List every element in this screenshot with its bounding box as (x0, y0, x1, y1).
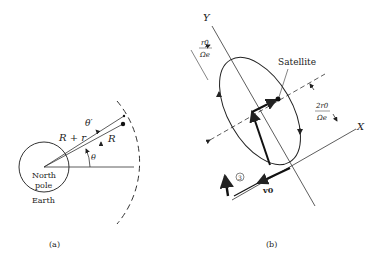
small-arrow-3 (225, 176, 228, 196)
axis-y-label: Y (203, 12, 211, 23)
vector-along-y (252, 112, 270, 165)
height-dim-arrow-top (310, 84, 314, 90)
reference-dot-a (123, 115, 125, 117)
earth-label-pole: pole (35, 181, 52, 190)
figure-canvas: θ′ R + r R θ North pole Earth (a) (0, 0, 383, 257)
label-theta: θ (91, 153, 96, 162)
x-axis-line (232, 129, 356, 200)
figure-b: Y X Satellite r0 Ωe 2r0 Ωe v0 3 (b) (191, 12, 365, 249)
axis-x-label: X (356, 121, 365, 132)
satellite-dot-a (121, 122, 125, 126)
velocity-vector (258, 168, 290, 183)
dashed-center-line (210, 74, 325, 140)
figure-a: θ′ R + r R θ North pole Earth (a) (19, 101, 140, 249)
height-dim-arrow-bottom (333, 114, 337, 121)
height-label-numerator: 2r0 (315, 102, 329, 110)
label-r-plus-r: R + r (58, 132, 87, 143)
y-axis-line (212, 26, 315, 206)
satellite-dot-b (276, 97, 281, 102)
theta-arc (86, 149, 90, 167)
width-label-denominator: Ωe (199, 51, 210, 59)
orbit-arc (117, 101, 140, 224)
label-theta-prime: θ′ (85, 118, 92, 128)
satellite-label: Satellite (278, 57, 316, 67)
earth-label-north: North (32, 171, 56, 180)
velocity-base-line (234, 183, 258, 196)
circled-number: 3 (238, 174, 242, 181)
caption-a: (a) (49, 240, 60, 249)
caption-b: (b) (266, 240, 277, 249)
width-label-numerator: r0 (201, 39, 209, 47)
height-label-denominator: Ωe (316, 114, 327, 122)
earth-name-label: Earth (32, 196, 55, 205)
velocity-label: v0 (262, 185, 274, 195)
label-r: R (107, 133, 116, 144)
